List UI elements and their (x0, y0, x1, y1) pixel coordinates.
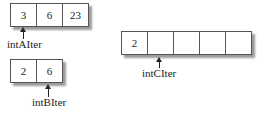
array-b: 2 6 (10, 59, 63, 83)
array-a-cell-1: 6 (36, 3, 63, 27)
array-c-cell-2 (173, 31, 200, 55)
array-a: 3 6 23 (10, 3, 89, 27)
array-c-cell-1 (147, 31, 174, 55)
pointer-c-label: intCIter (142, 67, 176, 79)
array-b-cell-1: 6 (36, 59, 63, 83)
array-c: 2 (121, 31, 252, 55)
array-c-cell-4 (225, 31, 252, 55)
array-c-cell-3 (199, 31, 226, 55)
pointer-b-label: intBIter (32, 96, 66, 108)
array-a-cell-0: 3 (10, 3, 37, 27)
pointer-a-label: intAIter (7, 38, 42, 50)
array-c-cell-0: 2 (121, 31, 148, 55)
array-b-cell-0: 2 (10, 59, 37, 83)
array-a-cell-2: 23 (62, 3, 89, 27)
